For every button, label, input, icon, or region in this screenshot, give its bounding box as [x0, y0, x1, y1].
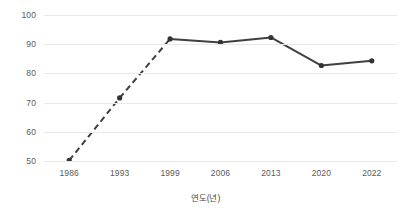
data-point-marker	[167, 36, 172, 41]
series-segment	[221, 37, 271, 42]
x-tick-label: 1999	[148, 168, 192, 178]
series-layer	[44, 15, 397, 161]
y-tick-label: 100	[0, 10, 36, 20]
data-point-marker	[117, 95, 122, 100]
gridline	[44, 132, 397, 133]
x-tick-label: 2006	[199, 168, 243, 178]
plot-area	[44, 15, 397, 161]
series-segment	[120, 39, 170, 98]
x-axis-title: 연도(년)	[0, 191, 411, 203]
y-tick-label: 90	[0, 39, 36, 49]
x-tick-label: 2022	[350, 168, 394, 178]
x-tick-label: 1986	[47, 168, 91, 178]
series-segment	[69, 98, 119, 160]
line-chart: 현역 판정률(퍼센트) 연도(년) 5060708090100 19861993…	[0, 0, 411, 215]
x-tick-label: 2020	[299, 168, 343, 178]
series-segment	[321, 61, 371, 66]
x-tick-label: 1993	[98, 168, 142, 178]
data-point-marker	[369, 58, 374, 63]
gridline	[44, 44, 397, 45]
y-tick-label: 70	[0, 98, 36, 108]
data-point-marker	[268, 35, 273, 40]
gridline	[44, 73, 397, 74]
gridline	[44, 161, 397, 162]
y-tick-label: 50	[0, 156, 36, 166]
data-point-marker	[319, 63, 324, 68]
x-tick-label: 2013	[249, 168, 293, 178]
gridline	[44, 15, 397, 16]
gridline	[44, 103, 397, 104]
series-segment	[170, 39, 220, 43]
y-tick-label: 60	[0, 127, 36, 137]
series-segment	[271, 37, 321, 65]
y-tick-label: 80	[0, 68, 36, 78]
